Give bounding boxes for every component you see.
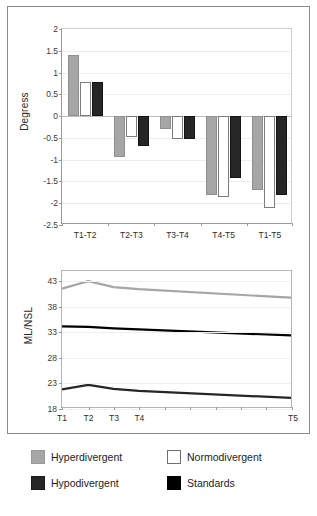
bar-chart-bar[interactable] xyxy=(126,116,137,137)
bar-chart-bar[interactable] xyxy=(252,116,263,190)
line-chart-y-tick-label: 38 xyxy=(48,302,57,312)
line-chart-y-tick-label: 43 xyxy=(48,276,57,286)
bar-chart-plot-area: 21.510.50-0.5-1-1.5-2-2.5T1-T2T2-T3T3-T4… xyxy=(61,28,292,224)
line-chart-x-tickmark xyxy=(292,407,293,410)
line-chart-y-tick-label: 23 xyxy=(48,378,57,388)
bar-chart-bar[interactable] xyxy=(230,116,241,178)
line-chart-x-tickmark xyxy=(89,407,90,410)
bar-chart-y-tick-label: -1 xyxy=(50,155,58,165)
bar-chart-x-tick-label: T1-T2 xyxy=(62,230,108,240)
bar-chart-y-tick-label: 1 xyxy=(53,68,58,78)
bar-chart-x-tickmark xyxy=(292,223,293,226)
bar-chart-bar[interactable] xyxy=(92,82,103,116)
line-chart-y-tickmark xyxy=(59,332,62,333)
line-chart-y-axis-title: ML/NSL xyxy=(23,291,34,361)
line-chart-y-tickmark xyxy=(59,358,62,359)
bar-chart-group: T4-T5 xyxy=(201,29,247,223)
line-chart-x-tick-label: T4 xyxy=(134,413,144,423)
line-chart-x-tickmark xyxy=(216,407,217,410)
bar-chart-y-tick-label: 1.5 xyxy=(46,46,58,56)
bar-chart-group: T2-T3 xyxy=(108,29,154,223)
bar-chart-group: T1-T5 xyxy=(247,29,293,223)
legend-swatch-icon xyxy=(167,476,181,490)
bar-chart-bar[interactable] xyxy=(264,116,275,207)
line-chart-y-tick-label: 18 xyxy=(48,404,57,414)
line-chart-series-svg xyxy=(62,271,291,407)
bar-chart-bar[interactable] xyxy=(276,116,287,195)
bar-chart-y-tick-label: -1.5 xyxy=(43,176,58,186)
chart-legend: HyperdivergentNormodivergentHypodivergen… xyxy=(7,433,310,510)
line-chart-series-line[interactable] xyxy=(62,326,291,335)
legend-item-label: Normodivergent xyxy=(187,451,262,463)
line-chart-x-tick-label: T5 xyxy=(288,413,298,423)
legend-swatch-icon xyxy=(167,450,181,464)
legend-item[interactable]: Normodivergent xyxy=(167,450,262,464)
line-chart-gridline xyxy=(62,307,291,308)
bar-chart-panel: Degress 21.510.50-0.5-1-1.5-2-2.5T1-T2T2… xyxy=(7,6,310,246)
bar-chart-x-tickmark xyxy=(62,223,63,226)
bar-chart-y-tick-label: -0.5 xyxy=(43,133,58,143)
bar-chart-bar[interactable] xyxy=(138,116,149,146)
line-chart-x-tick-label: T2 xyxy=(84,413,94,423)
line-chart-x-tickmark xyxy=(241,407,242,410)
legend-item-label: Hyperdivergent xyxy=(51,451,122,463)
legend-swatch-icon xyxy=(31,476,45,490)
line-chart-gridline xyxy=(62,281,291,282)
legend-item[interactable]: Hyperdivergent xyxy=(31,450,122,464)
bar-chart-bar[interactable] xyxy=(218,116,229,197)
line-chart-x-tickmark xyxy=(165,407,166,410)
line-chart-y-tickmark xyxy=(59,281,62,282)
line-chart-gridline xyxy=(62,332,291,333)
bar-chart-group: T3-T4 xyxy=(154,29,200,223)
bar-chart-x-tickmark xyxy=(154,223,155,226)
bar-chart-bar[interactable] xyxy=(68,55,79,116)
line-chart-y-tick-label: 28 xyxy=(48,353,57,363)
bar-chart-y-tick-label: -2 xyxy=(50,198,58,208)
line-chart-x-tickmark xyxy=(266,407,267,410)
bar-chart-x-tick-label: T1-T5 xyxy=(247,230,293,240)
line-chart-x-tickmark xyxy=(62,407,63,410)
bar-chart-group: T1-T2 xyxy=(62,29,108,223)
line-chart-x-tickmark xyxy=(114,407,115,410)
bar-chart-x-tickmark xyxy=(201,223,202,226)
legend-item-label: Standards xyxy=(187,477,235,489)
line-chart-x-tick-label: T1 xyxy=(57,413,67,423)
bar-chart-bar[interactable] xyxy=(172,116,183,139)
line-chart-plot-area: 433833282318T1T2T3T4T5 xyxy=(61,270,292,408)
bar-chart-x-tick-label: T4-T5 xyxy=(201,230,247,240)
figure-container: Degress 21.510.50-0.5-1-1.5-2-2.5T1-T2T2… xyxy=(0,0,317,516)
bar-chart-bar[interactable] xyxy=(114,116,125,157)
line-chart-x-tickmark xyxy=(139,407,140,410)
line-chart-gridline xyxy=(62,383,291,384)
line-chart-x-tickmark xyxy=(190,407,191,410)
bar-chart-y-tick-label: 2 xyxy=(53,24,58,34)
legend-swatch-icon xyxy=(31,450,45,464)
legend-item[interactable]: Hypodivergent xyxy=(31,476,119,490)
legend-item[interactable]: Standards xyxy=(167,476,235,490)
bar-chart-bar[interactable] xyxy=(160,116,171,129)
bar-chart-x-tickmark xyxy=(108,223,109,226)
bar-chart-y-axis-title: Degress xyxy=(19,77,30,147)
line-chart-series-line[interactable] xyxy=(62,385,291,398)
bar-chart-x-tick-label: T3-T4 xyxy=(154,230,200,240)
bar-chart-y-tick-label: -2.5 xyxy=(43,220,58,230)
bar-chart-x-tickmark xyxy=(247,223,248,226)
bar-chart-x-tick-label: T2-T3 xyxy=(108,230,154,240)
line-chart-panel: ML/NSL 433833282318T1T2T3T4T5 xyxy=(7,258,310,433)
line-chart-x-tick-label: T3 xyxy=(109,413,119,423)
line-chart-gridline xyxy=(62,358,291,359)
line-chart-y-tickmark xyxy=(59,307,62,308)
bar-chart-y-tick-label: 0 xyxy=(53,111,58,121)
bar-chart-y-tick-label: 0.5 xyxy=(46,89,58,99)
legend-item-label: Hypodivergent xyxy=(51,477,119,489)
bar-chart-bar[interactable] xyxy=(80,82,91,116)
bar-chart-bar[interactable] xyxy=(184,116,195,139)
line-chart-y-tick-label: 33 xyxy=(48,327,57,337)
line-chart-gridline xyxy=(62,409,291,410)
line-chart-y-tickmark xyxy=(59,383,62,384)
line-chart-series-line[interactable] xyxy=(62,281,291,298)
bar-chart-bar[interactable] xyxy=(206,116,217,195)
